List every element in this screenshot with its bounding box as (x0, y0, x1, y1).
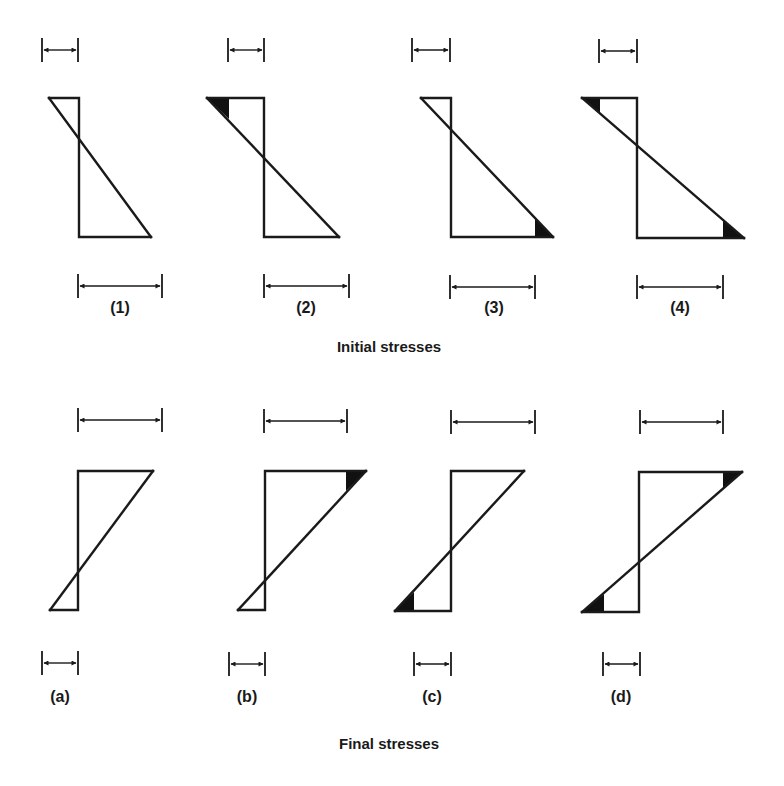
stress-block (582, 472, 742, 612)
initial-case-3-label: (3) (484, 299, 504, 317)
initial-case-4-label: (4) (670, 299, 690, 317)
dimension-arrow-bottom (450, 275, 535, 299)
stress-block (50, 471, 153, 610)
dimension-arrow-top (640, 410, 723, 434)
dimension-arrow-top (599, 39, 637, 63)
dimension-arrow-bottom (229, 652, 265, 676)
stress-block (207, 98, 339, 237)
initial-case-2 (207, 38, 349, 298)
initial-stresses-caption: Initial stresses (337, 338, 441, 355)
dimension-arrow-bottom (264, 274, 349, 298)
stress-block (421, 98, 553, 237)
dimension-arrow-top (264, 409, 347, 433)
dimension-arrow-top (228, 38, 264, 62)
dimension-arrow-top (78, 408, 162, 432)
initial-case-3 (412, 38, 553, 299)
dimension-arrow-top (42, 38, 78, 62)
final-case-c-label: (c) (422, 688, 442, 706)
stress-block (49, 98, 151, 237)
initial-case-1 (42, 38, 162, 298)
dimension-arrow-bottom (78, 274, 162, 298)
final-case-a (42, 408, 162, 675)
dimension-arrow-bottom (42, 651, 78, 675)
final-case-b (229, 409, 366, 676)
stress-block (582, 98, 744, 238)
dimension-arrow-bottom (414, 652, 451, 676)
final-case-a-label: (a) (50, 688, 70, 706)
initial-case-1-label: (1) (110, 299, 130, 317)
final-case-c (395, 410, 535, 676)
initial-case-2-label: (2) (296, 299, 316, 317)
final-case-d (582, 410, 742, 676)
stress-block (238, 471, 366, 610)
dimension-arrow-bottom (603, 652, 640, 676)
stress-diagram-figure (0, 0, 784, 786)
stress-block (395, 471, 524, 611)
dimension-arrow-bottom (637, 275, 723, 299)
initial-case-4 (582, 39, 744, 299)
final-case-d-label: (d) (611, 688, 631, 706)
final-stresses-caption: Final stresses (339, 735, 439, 752)
dimension-arrow-top (451, 410, 535, 434)
final-case-b-label: (b) (237, 688, 257, 706)
dimension-arrow-top (412, 38, 450, 62)
